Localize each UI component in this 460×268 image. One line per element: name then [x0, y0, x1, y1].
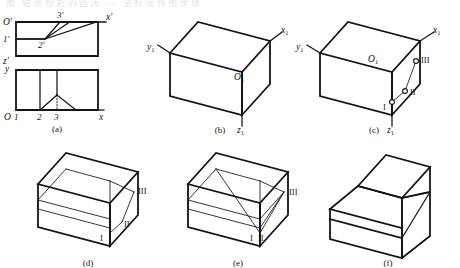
point-iii-label: III: [421, 55, 430, 65]
point-i-marker: [390, 100, 395, 105]
panel-b: O1 x1 y1 z1 (b): [140, 6, 290, 134]
top-view-vee-left: [40, 95, 57, 110]
point-d-i-label: I: [100, 233, 103, 243]
step-ledge-front-edge: [38, 209, 110, 228]
panel-a: O′ x′ z′ 1′ 2′ 3′ y O 1 2 3 x: [0, 6, 140, 134]
point-e-i-label: I: [250, 233, 253, 243]
box-e-top-face: [188, 153, 288, 203]
step-ledge-e-front-edge: [188, 209, 260, 228]
top-view-origin-label: O: [4, 112, 11, 122]
finished-solid-f: [330, 155, 430, 258]
box-c-y-axis: [307, 45, 320, 53]
caption-e: (e): [233, 258, 243, 268]
box-b-y-axis: [158, 45, 170, 53]
isometric-box-d: I II III: [38, 153, 147, 246]
point-chain-d-ii-to-iii: [122, 192, 134, 222]
point-d-ii-label: II: [124, 219, 130, 229]
top-view-x-axis-label: x: [98, 112, 104, 122]
front-view-origin-label: O′: [3, 17, 13, 27]
panel-c: I II III O1 x1 y1 z1 (c): [288, 6, 460, 134]
front-view-point-3-label: 3′: [56, 10, 65, 20]
solid-f-right-side-face: [402, 192, 430, 258]
caption-b: (b): [215, 125, 226, 135]
box-d-top-face: [38, 153, 138, 203]
top-view-vee-right: [57, 95, 76, 110]
box-c-x-axis: [420, 32, 434, 41]
top-view-tick-3-label: 3: [53, 112, 59, 122]
front-view-point-2-label: 2′: [38, 40, 46, 50]
box-c-origin-label: O1: [368, 54, 378, 65]
solid-f-top-face: [358, 155, 430, 198]
box-b-right-face: [242, 41, 270, 115]
top-view-tick-2-label: 2: [37, 112, 42, 122]
incline-plane-ledge-line: [38, 200, 110, 219]
isometric-box-e: I II II III: [188, 153, 298, 246]
top-view-tick-1-label: 1: [14, 112, 19, 122]
point-ii-label: II: [410, 87, 416, 97]
panel-e: I II II III (e): [160, 136, 310, 268]
caption-f: (f): [384, 258, 393, 268]
point-ii-marker: [403, 89, 408, 94]
point-e-ii-label-visible: II: [258, 233, 264, 243]
panel-d: I II III (d): [10, 136, 160, 268]
panel-f: (f): [310, 136, 460, 268]
front-view-group: O′ x′ z′ 1′ 2′ 3′: [2, 10, 113, 66]
point-e-iii-label: III: [289, 187, 298, 197]
solid-f-notch-edge-c: [402, 192, 430, 238]
figure-root: 图 轴测投影的画法 — 坐标法作图步骤 O′ x′ z′ 1′ 2′ 3′: [0, 0, 460, 268]
point-chain-d-i-to-ii: [110, 222, 122, 233]
box-b-y-axis-label: y1: [146, 42, 154, 53]
box-c-top-face: [320, 22, 420, 72]
caption-d: (d): [83, 258, 94, 268]
box-b-z-axis-label: z1: [236, 125, 244, 136]
solid-f-lower-step-top: [330, 209, 402, 238]
cut-face-edge-d: [260, 192, 284, 219]
front-view-x-axis-label: x′: [105, 12, 113, 22]
point-iii-marker: [414, 59, 419, 64]
box-c-z-axis-label: z1: [386, 125, 394, 136]
box-c-right-face: [392, 41, 420, 115]
incline-plane-top-edge: [66, 169, 110, 181]
top-view-group: y O 1 2 3 x: [4, 64, 104, 122]
top-view-y-axis-label: y: [4, 64, 10, 74]
caption-c: (c): [369, 125, 379, 135]
caption-a: (a): [52, 124, 62, 134]
isometric-box-c: I II III O1 x1 y1 z1: [295, 22, 440, 136]
isometric-box-b: O1 x1 y1 z1: [146, 22, 288, 136]
incline-plane-e-ledge-line: [188, 200, 260, 219]
front-view-point-1-label: 1′: [3, 34, 11, 44]
box-b-top-face: [170, 22, 270, 72]
box-c-x-axis-label: x1: [432, 25, 440, 36]
box-c-y-axis-label: y1: [295, 42, 303, 53]
point-d-iii-label: III: [138, 186, 147, 196]
point-i-label: I: [383, 102, 386, 112]
